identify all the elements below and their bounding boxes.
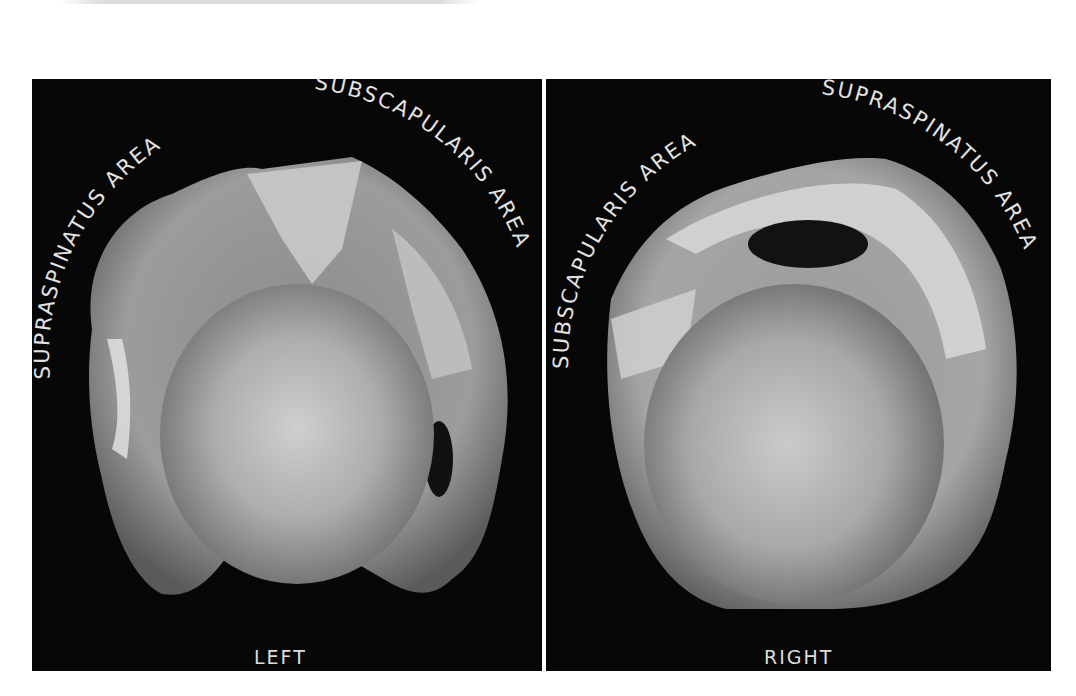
side-label-left: LEFT (254, 646, 307, 668)
humeral-head-right (644, 284, 944, 604)
photo-panel-left: SUPRASPINATUS AREA SUBSCAPULARIS AREA LE… (32, 79, 542, 671)
specimen-photo-right: SUBSCAPULARIS AREA SUPRASPINATUS AREA RI… (546, 79, 1051, 671)
side-label-right: RIGHT (764, 646, 833, 668)
cropped-caption-strip (60, 0, 480, 4)
humeral-head-left (160, 284, 434, 584)
photo-panel-right: SUBSCAPULARIS AREA SUPRASPINATUS AREA RI… (546, 79, 1051, 671)
specimen-photo-left: SUPRASPINATUS AREA SUBSCAPULARIS AREA LE… (32, 79, 542, 671)
